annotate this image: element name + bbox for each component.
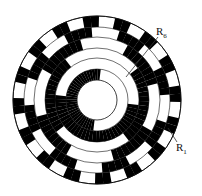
label-r6: R6	[156, 26, 167, 40]
segment	[91, 16, 99, 27]
segment	[45, 99, 55, 104]
segment	[170, 94, 181, 102]
segment	[139, 96, 149, 101]
center-hole	[77, 80, 117, 120]
segment	[95, 173, 103, 184]
segment	[13, 98, 24, 106]
encoder-disc	[0, 0, 202, 196]
label-r1: R1	[176, 142, 187, 156]
